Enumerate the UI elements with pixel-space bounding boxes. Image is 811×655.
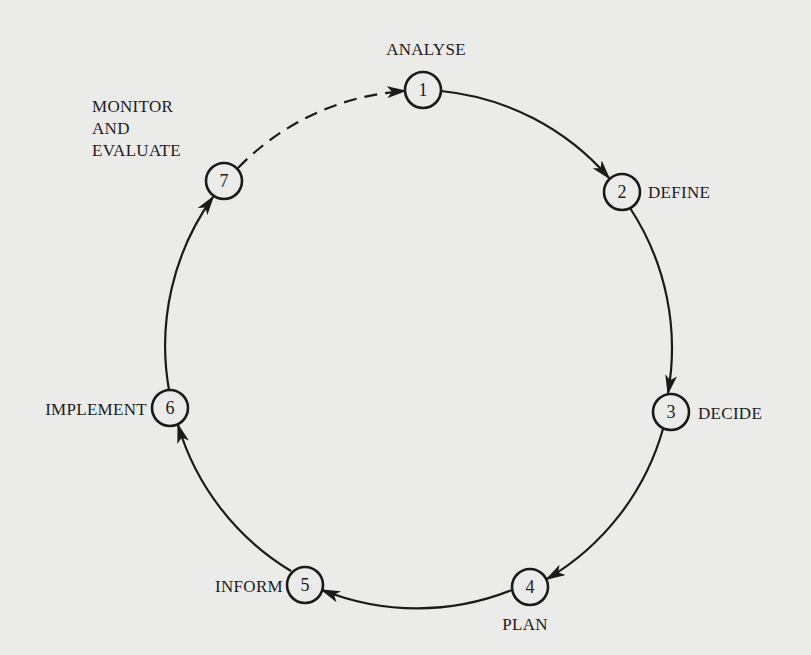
node-number: 1 (419, 80, 428, 100)
node-number: 3 (667, 402, 676, 422)
node-7: 7 MONITOR AND EVALUATE (92, 97, 242, 199)
node-number: 7 (220, 171, 229, 191)
edge-1-2 (441, 91, 609, 178)
node-label-monitor-line1: MONITOR (92, 97, 173, 116)
node-5: 5 INFORM (215, 567, 323, 603)
edge-7-1 (238, 91, 405, 168)
node-1: 1 ANALYSE (386, 40, 466, 108)
edge-4-5 (322, 590, 512, 608)
node-label-decide: DECIDE (698, 404, 762, 423)
edge-5-6 (178, 425, 291, 571)
node-label-analyse: ANALYSE (386, 40, 466, 59)
node-label-monitor-line3: EVALUATE (92, 141, 181, 160)
node-label-implement: IMPLEMENT (45, 400, 147, 419)
node-number: 2 (618, 182, 627, 202)
edge-3-4 (547, 429, 663, 579)
node-label-monitor-line2: AND (92, 119, 130, 138)
node-label-plan: PLAN (502, 615, 548, 634)
node-2: 2 DEFINE (604, 174, 710, 210)
node-6: 6 IMPLEMENT (45, 390, 188, 426)
edge-6-7 (165, 197, 213, 390)
edges (165, 91, 672, 608)
node-3: 3 DECIDE (653, 394, 762, 430)
cycle-diagram: 1 ANALYSE 2 DEFINE 3 DECIDE 4 PLAN 5 INF… (0, 0, 811, 655)
node-number: 4 (526, 577, 535, 597)
node-number: 5 (301, 575, 310, 595)
node-4: 4 PLAN (502, 569, 548, 634)
node-label-define: DEFINE (648, 183, 710, 202)
node-number: 6 (166, 398, 175, 418)
edge-2-3 (630, 208, 672, 393)
node-label-inform: INFORM (215, 577, 283, 596)
